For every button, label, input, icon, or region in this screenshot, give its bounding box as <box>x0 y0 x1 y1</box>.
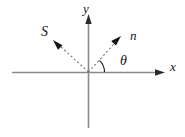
theta-arc <box>99 60 104 72</box>
normal-vector-group <box>89 36 122 72</box>
y-axis-group <box>85 14 91 128</box>
y-axis-label: y <box>83 2 89 15</box>
vector-diagram-figure: y x S n θ <box>0 0 185 137</box>
theta-angle-group <box>99 60 104 72</box>
diagram-canvas <box>0 0 185 137</box>
poynting-vector-group <box>53 40 89 72</box>
poynting-vector-line <box>60 46 89 72</box>
theta-angle-label: θ <box>120 54 127 68</box>
arrow-up-left-icon <box>53 40 63 50</box>
arrow-up-right-icon <box>111 36 121 45</box>
normal-vector-line <box>89 44 115 72</box>
normal-vector-label: n <box>130 29 137 42</box>
arrow-right-icon <box>155 69 165 76</box>
x-axis-label: x <box>170 60 176 73</box>
poynting-vector-label: S <box>41 25 48 39</box>
